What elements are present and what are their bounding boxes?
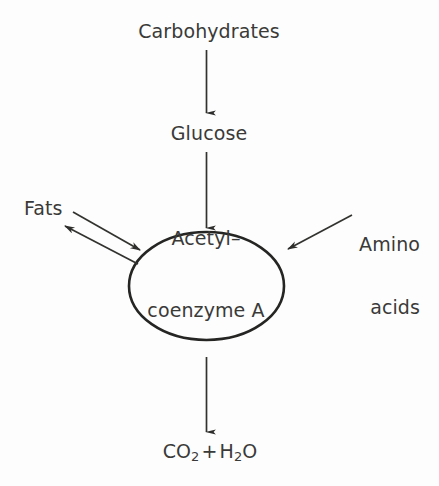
acetyl-coa-line-1: Acetyl– bbox=[147, 226, 264, 250]
node-label-glucose: Glucose bbox=[171, 123, 247, 144]
products-subscript-co2: 2 bbox=[191, 449, 199, 464]
node-label-carbohydrates: Carbohydrates bbox=[138, 21, 280, 42]
arrow-acetyl-coa-to-fats bbox=[65, 226, 138, 264]
products-operator-plus: + bbox=[199, 440, 219, 462]
node-label-products: CO2+H2O bbox=[163, 441, 258, 467]
arrow-amino-acids-to-acetyl-coa bbox=[288, 215, 352, 249]
node-label-fats: Fats bbox=[24, 198, 63, 219]
node-label-amino-acids: Amino acids bbox=[359, 192, 420, 360]
node-label-acetyl-coenzyme-a: Acetyl– coenzyme A bbox=[147, 178, 264, 370]
acetyl-coa-line-2: coenzyme A bbox=[147, 298, 264, 322]
products-formula-co: CO bbox=[163, 440, 191, 462]
metabolic-pathway-diagram: Carbohydrates Glucose Fats Amino acids A… bbox=[0, 0, 439, 486]
products-formula-o: O bbox=[242, 440, 257, 462]
products-subscript-h2: 2 bbox=[234, 449, 242, 464]
arrow-fats-to-acetyl-coa bbox=[73, 212, 140, 250]
products-formula-h: H bbox=[220, 440, 234, 462]
amino-acids-line-1: Amino bbox=[359, 234, 420, 255]
amino-acids-line-2: acids bbox=[359, 297, 420, 318]
